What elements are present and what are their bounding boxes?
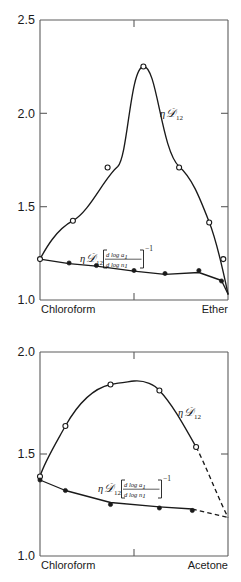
chart-bottom-svg: 2.0 1.5 1.0 Chloroform Acetone	[0, 330, 241, 582]
annotation-sub-12: 12	[96, 259, 104, 267]
y-tick-label: 2.0	[18, 107, 35, 121]
x-axis-right-label: Acetone	[188, 559, 228, 571]
series-line-etaD12-top	[40, 66, 228, 294]
y-tick-label: 2.5	[18, 13, 35, 27]
annotation-eta: η	[160, 108, 165, 119]
y-tick-label: 1.5	[18, 200, 35, 214]
y-tick-label: 1.0	[18, 293, 35, 307]
annotation-sub-12: 12	[176, 114, 184, 122]
annotation-eta: η	[178, 407, 183, 418]
series-dashed-etaD12-bottom	[196, 447, 228, 518]
y-tick-label: 1.5	[18, 447, 35, 461]
markers-open-bottom	[38, 382, 199, 479]
annotation-frac-denominator: d log n1	[124, 491, 146, 501]
annotation-sub-12: 12	[114, 489, 122, 497]
annotation-eta: η	[80, 253, 85, 264]
markers-open-top	[38, 64, 226, 262]
chart-top-svg: 2.5 2.0 1.5 1.0 Chloroform Ether	[0, 0, 241, 330]
series-dashed-bracket-bottom	[192, 509, 228, 518]
x-axis-right-label: Ether	[202, 303, 229, 315]
annotation-sub-12: 12	[194, 413, 202, 421]
annotation-eta: η	[98, 483, 103, 494]
annotation-curve-label-bottom: η 𝒟 12	[178, 405, 202, 421]
annotation-exponent: −1	[145, 244, 153, 253]
annotation-curve-label-top: η 𝒟 12	[160, 106, 184, 122]
y-tick-label: 1.0	[18, 549, 35, 563]
annotation-bracket-expression-bottom: η 𝒟 12 d log a1 d log n1 −1	[98, 474, 171, 500]
axes-frame-top	[40, 20, 228, 300]
x-axis-left-label: Chloroform	[41, 303, 95, 315]
series-line-etaD12-bottom	[40, 381, 196, 477]
figure-page: 2.5 2.0 1.5 1.0 Chloroform Ether	[0, 0, 241, 582]
chart-top-chloroform-ether: 2.5 2.0 1.5 1.0 Chloroform Ether	[0, 0, 241, 330]
y-ticks-top	[40, 113, 228, 206]
x-axis-left-label: Chloroform	[41, 559, 95, 571]
chart-bottom-chloroform-acetone: 2.0 1.5 1.0 Chloroform Acetone	[0, 330, 241, 582]
annotation-exponent: −1	[163, 474, 171, 483]
y-tick-label: 2.0	[18, 345, 35, 359]
